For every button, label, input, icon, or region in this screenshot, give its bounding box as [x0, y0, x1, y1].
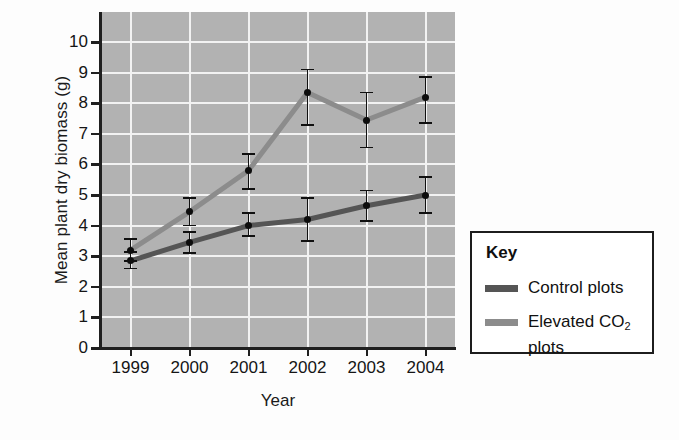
y-tick-label: 10 — [62, 32, 88, 52]
error-bar-cap — [419, 176, 432, 178]
error-bar-cap — [360, 92, 373, 94]
x-axis-spine — [99, 347, 456, 350]
y-tick-label: 2 — [62, 277, 88, 297]
y-tick-mark — [91, 163, 99, 166]
y-tick-label: 8 — [62, 93, 88, 113]
data-point — [186, 239, 193, 246]
error-bar-cap — [124, 268, 137, 270]
legend-key-box: Key Control plotsElevated CO2 plots — [470, 231, 654, 354]
data-point — [127, 247, 134, 254]
x-tick-label: 2003 — [337, 358, 397, 378]
y-tick-label: 5 — [62, 185, 88, 205]
data-point — [363, 117, 370, 124]
error-bar-cap — [183, 197, 196, 199]
y-tick-label: 9 — [62, 63, 88, 83]
y-tick-mark — [91, 194, 99, 197]
chart-figure: Mean plant dry biomass (g) 012345678910 … — [0, 0, 679, 440]
error-bar-cap — [124, 260, 137, 262]
legend-entry: Elevated CO2 plots — [485, 311, 652, 358]
y-tick-mark — [91, 72, 99, 75]
legend-title: Key — [486, 243, 517, 263]
x-tick-label: 1999 — [101, 358, 161, 378]
series-lines — [101, 12, 455, 348]
data-point — [304, 216, 311, 223]
y-tick-label: 1 — [62, 307, 88, 327]
x-tick-mark — [366, 348, 369, 356]
error-bar-cap — [183, 225, 196, 227]
error-bar-cap — [301, 69, 314, 71]
y-tick-label: 3 — [62, 246, 88, 266]
error-bar-cap — [360, 190, 373, 192]
legend-label-subscript: 2 — [624, 320, 630, 332]
y-tick-mark — [91, 255, 99, 258]
y-tick-mark — [91, 225, 99, 228]
data-point — [422, 192, 429, 199]
legend-entry-label: Control plots — [528, 277, 623, 298]
x-axis-title: Year — [101, 391, 455, 411]
legend-entry-label: Elevated CO2 plots — [528, 311, 652, 358]
error-bar — [307, 70, 309, 125]
error-bar-cap — [360, 147, 373, 149]
y-tick-mark — [91, 316, 99, 319]
y-tick-mark — [91, 133, 99, 136]
x-tick-label: 2000 — [160, 358, 220, 378]
y-tick-mark — [91, 286, 99, 289]
y-axis-spine — [99, 12, 102, 349]
error-bar-cap — [301, 240, 314, 242]
legend-entry: Control plots — [485, 277, 623, 298]
plot-area — [101, 12, 455, 348]
error-bar-cap — [419, 212, 432, 214]
data-point — [304, 89, 311, 96]
x-tick-label: 2001 — [219, 358, 279, 378]
error-bar-cap — [242, 212, 255, 214]
y-tick-label: 7 — [62, 124, 88, 144]
data-point — [422, 94, 429, 101]
series-line — [131, 92, 426, 250]
y-tick-mark — [91, 347, 99, 350]
legend-color-swatch — [485, 285, 518, 292]
x-tick-mark — [307, 348, 310, 356]
x-tick-mark — [425, 348, 428, 356]
x-tick-mark — [189, 348, 192, 356]
y-tick-label: 4 — [62, 216, 88, 236]
legend-label-suffix: plots — [528, 338, 564, 357]
error-bar-cap — [301, 197, 314, 199]
error-bar-cap — [419, 76, 432, 78]
x-tick-mark — [248, 348, 251, 356]
error-bar-cap — [124, 238, 137, 240]
y-tick-mark — [91, 102, 99, 105]
x-tick-label: 2002 — [278, 358, 338, 378]
y-tick-mark — [91, 41, 99, 44]
legend-label-main: Elevated CO — [528, 312, 624, 331]
x-tick-label: 2004 — [396, 358, 456, 378]
error-bar-cap — [419, 122, 432, 124]
y-tick-label: 0 — [62, 338, 88, 358]
error-bar-cap — [183, 252, 196, 254]
series-line — [131, 195, 426, 261]
error-bar-cap — [183, 231, 196, 233]
x-tick-mark — [130, 348, 133, 356]
error-bar-cap — [242, 188, 255, 190]
error-bar-cap — [242, 153, 255, 155]
data-point — [245, 167, 252, 174]
error-bar-cap — [301, 124, 314, 126]
legend-color-swatch — [485, 319, 518, 326]
error-bar-cap — [242, 235, 255, 237]
error-bar-cap — [360, 220, 373, 222]
y-tick-label: 6 — [62, 154, 88, 174]
